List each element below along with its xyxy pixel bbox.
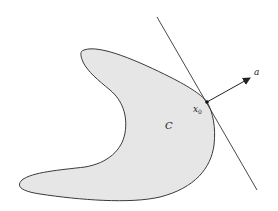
supporting-hyperplane-diagram: a x0 C (0, 0, 278, 211)
set-c-label: C (165, 120, 173, 131)
vector-a-label: a (254, 67, 259, 77)
normal-vector-arrow (207, 78, 250, 102)
point-x0 (205, 100, 209, 104)
point-x0-label-subscript: 0 (198, 108, 202, 115)
set-c-shape (19, 49, 214, 201)
